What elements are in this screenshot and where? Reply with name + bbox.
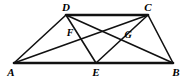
cevian-CE-line (96, 15, 148, 63)
vertex-label-A: A (7, 67, 14, 78)
side-AD-line (14, 15, 66, 63)
side-CB-line (148, 15, 173, 63)
vertex-label-C: C (144, 2, 151, 13)
segment-group (14, 15, 173, 63)
point-label-G: G (124, 30, 131, 40)
vertex-label-B: B (172, 67, 179, 78)
geometry-figure: D C F G A E B (0, 0, 190, 79)
vertex-label-D: D (62, 2, 70, 13)
point-label-F: F (67, 28, 74, 38)
vertex-label-E: E (92, 67, 99, 78)
